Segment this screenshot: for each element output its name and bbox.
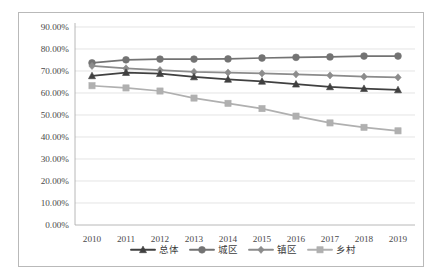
y-axis-tick-label: 80.00% <box>41 44 70 54</box>
series-line <box>92 73 398 90</box>
marker-circle <box>157 56 164 63</box>
data-point <box>293 113 299 119</box>
marker-square <box>317 247 323 253</box>
legend-label: 镇区 <box>277 244 297 255</box>
data-point <box>293 71 299 78</box>
marker-square <box>89 83 95 89</box>
legend-marker <box>199 246 206 253</box>
data-point <box>361 73 367 80</box>
marker-square <box>293 113 299 119</box>
legend-marker <box>317 247 323 253</box>
marker-circle <box>395 53 402 60</box>
legend-item-镇区[interactable]: 镇区 <box>249 244 297 255</box>
y-axis-tick-label: 70.00% <box>41 66 70 76</box>
data-point <box>327 72 333 79</box>
legend-label: 城区 <box>218 244 238 255</box>
marker-diamond <box>327 72 333 79</box>
data-point <box>123 85 129 91</box>
x-axis-tick-label: 2011 <box>117 234 135 244</box>
legend-item-乡村[interactable]: 乡村 <box>308 244 356 255</box>
y-axis-tick-label: 90.00% <box>41 22 70 32</box>
marker-square <box>191 95 197 101</box>
marker-diamond <box>293 71 299 78</box>
legend-item-总体[interactable]: 总体 <box>131 244 179 255</box>
x-axis-tick-label: 2018 <box>355 234 374 244</box>
marker-circle <box>225 56 232 63</box>
y-axis-tick-label: 40.00% <box>41 132 70 142</box>
legend-label: 乡村 <box>336 244 356 255</box>
data-point <box>123 56 130 63</box>
data-point <box>327 54 334 61</box>
data-point <box>225 100 231 106</box>
marker-square <box>395 128 401 134</box>
x-axis-tick-label: 2019 <box>389 234 408 244</box>
x-axis-tick-label: 2016 <box>287 234 306 244</box>
marker-circle <box>293 54 300 61</box>
data-point <box>395 128 401 134</box>
marker-square <box>259 106 265 112</box>
data-point <box>361 53 368 60</box>
marker-circle <box>191 56 198 63</box>
series-line <box>92 66 398 77</box>
data-point <box>191 95 197 101</box>
legend-marker <box>258 246 264 253</box>
marker-square <box>157 88 163 94</box>
marker-square <box>123 85 129 91</box>
x-axis-tick-label: 2017 <box>321 234 340 244</box>
marker-square <box>225 100 231 106</box>
data-point <box>157 56 164 63</box>
marker-diamond <box>258 246 264 253</box>
line-chart: 0.00%10.00%20.00%30.00%40.00%50.00%60.00… <box>19 13 425 268</box>
marker-circle <box>361 53 368 60</box>
chart-plot-area: 0.00%10.00%20.00%30.00%40.00%50.00%60.00… <box>19 13 425 268</box>
series-城区 <box>89 53 402 67</box>
marker-square <box>327 120 333 126</box>
y-axis-tick-label: 30.00% <box>41 154 70 164</box>
x-axis-tick-label: 2012 <box>151 234 170 244</box>
x-axis-tick-label: 2015 <box>253 234 272 244</box>
data-point <box>395 74 401 81</box>
data-point <box>395 53 402 60</box>
data-point <box>157 88 163 94</box>
legend-label: 总体 <box>159 244 179 255</box>
data-point <box>89 83 95 89</box>
x-axis-tick-label: 2014 <box>219 234 238 244</box>
marker-circle <box>123 56 130 63</box>
marker-square <box>361 124 367 130</box>
y-axis-tick-label: 60.00% <box>41 88 70 98</box>
x-axis-tick-label: 2013 <box>185 234 204 244</box>
data-point <box>225 56 232 63</box>
series-乡村 <box>89 83 401 134</box>
series-line <box>92 86 398 131</box>
series-line <box>92 56 398 63</box>
marker-diamond <box>361 73 367 80</box>
marker-circle <box>199 246 206 253</box>
data-point <box>259 55 266 62</box>
y-axis-tick-label: 0.00% <box>45 220 69 230</box>
y-axis-tick-label: 20.00% <box>41 176 70 186</box>
data-point <box>293 54 300 61</box>
y-axis-tick-label: 50.00% <box>41 110 70 120</box>
marker-circle <box>327 54 334 61</box>
data-point <box>191 56 198 63</box>
marker-diamond <box>395 74 401 81</box>
legend-item-城区[interactable]: 城区 <box>190 244 238 255</box>
data-point <box>259 106 265 112</box>
series-镇区 <box>89 62 401 81</box>
chart-frame: 0.00%10.00%20.00%30.00%40.00%50.00%60.00… <box>18 12 424 267</box>
data-point <box>327 120 333 126</box>
y-axis-tick-label: 10.00% <box>41 198 70 208</box>
marker-circle <box>259 55 266 62</box>
data-point <box>361 124 367 130</box>
x-axis-tick-label: 2010 <box>83 234 102 244</box>
